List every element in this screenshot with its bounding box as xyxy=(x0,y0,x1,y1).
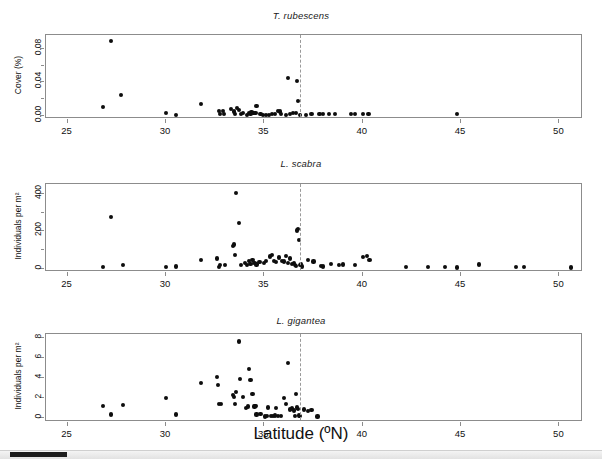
data-point xyxy=(232,242,236,246)
data-point xyxy=(234,191,238,195)
data-point xyxy=(274,260,278,264)
data-point xyxy=(109,215,113,219)
data-point xyxy=(426,265,430,269)
x-axis-tick xyxy=(263,272,264,276)
data-point xyxy=(119,93,123,97)
data-point xyxy=(286,76,290,80)
x-axis-tick xyxy=(362,119,363,123)
data-point xyxy=(164,111,168,115)
x-axis-tick xyxy=(460,272,461,276)
data-point xyxy=(101,105,105,109)
data-point xyxy=(309,408,313,412)
data-point xyxy=(311,259,315,263)
x-axis-tick-label: 25 xyxy=(52,278,82,289)
data-point xyxy=(315,414,319,418)
data-point xyxy=(270,253,274,257)
y-axis-tick xyxy=(41,212,44,213)
data-point xyxy=(232,395,236,399)
x-axis-tick-label: 35 xyxy=(248,125,278,136)
data-point xyxy=(233,253,237,257)
data-point xyxy=(237,339,241,343)
data-point xyxy=(247,367,251,371)
x-axis-tick-label: 50 xyxy=(543,278,573,289)
scrollbar-thumb[interactable] xyxy=(10,452,67,457)
x-axis-tick-label: 25 xyxy=(52,125,82,136)
y-axis-tick xyxy=(41,98,44,99)
data-point xyxy=(109,39,113,43)
data-point xyxy=(279,414,283,418)
data-point xyxy=(455,112,459,116)
y-axis-tick-label: 0.08 xyxy=(33,32,43,62)
y-axis-tick-label: 200 xyxy=(33,214,43,244)
data-point xyxy=(514,265,518,269)
data-point xyxy=(477,262,481,266)
x-axis-tick-label: 45 xyxy=(445,125,475,136)
y-axis-title: Individuals per m² xyxy=(13,317,23,435)
y-axis-tick-label: 400 xyxy=(33,177,43,207)
data-point xyxy=(222,112,226,116)
data-point xyxy=(246,404,250,408)
x-axis-tick xyxy=(362,272,363,276)
data-point xyxy=(199,258,203,262)
data-point xyxy=(219,402,223,406)
data-point xyxy=(288,256,292,260)
data-point xyxy=(282,396,286,400)
y-axis-tick xyxy=(41,65,44,66)
data-point xyxy=(365,254,369,258)
data-point xyxy=(304,113,308,117)
data-point xyxy=(257,260,261,264)
panel-title-3: L. gigantea xyxy=(0,315,602,326)
x-axis-tick-label: 45 xyxy=(445,278,475,289)
data-point xyxy=(522,265,526,269)
x-axis-title: Latitude (ºN) xyxy=(0,424,602,444)
data-point xyxy=(295,79,299,83)
panel-title-1: T. rubescens xyxy=(0,10,602,21)
data-point xyxy=(199,102,203,106)
data-point xyxy=(274,406,278,410)
data-point xyxy=(321,112,325,116)
data-point xyxy=(569,265,573,269)
x-axis-tick xyxy=(263,119,264,123)
data-point xyxy=(215,256,219,260)
x-axis-tick xyxy=(558,119,559,123)
data-point xyxy=(258,412,262,416)
data-point xyxy=(101,265,105,269)
data-point xyxy=(329,262,333,266)
figure-container: T. rubescens 2530354045500.000.040.08Cov… xyxy=(0,0,602,448)
data-point xyxy=(174,264,178,268)
panel-title-2: L. scabra xyxy=(0,158,602,169)
data-point xyxy=(233,402,237,406)
plot-area-2 xyxy=(45,183,582,271)
plot-area-1 xyxy=(45,34,582,118)
data-point xyxy=(279,112,283,116)
plot-area-3 xyxy=(45,333,582,421)
data-point xyxy=(174,412,178,416)
x-axis-tick xyxy=(67,119,68,123)
data-point xyxy=(321,264,325,268)
data-point xyxy=(234,390,238,394)
panel-l-scabra: L. scabra 2530354045500200400Individuals… xyxy=(0,150,602,310)
data-point xyxy=(238,377,242,381)
horizontal-scrollbar[interactable] xyxy=(0,450,602,459)
y-axis-tick xyxy=(41,249,44,250)
data-point xyxy=(361,112,365,116)
y-axis-tick-label: 0.00 xyxy=(33,99,43,129)
data-point xyxy=(101,404,105,408)
x-axis-tick xyxy=(558,272,559,276)
data-point xyxy=(237,221,241,225)
data-point xyxy=(164,396,168,400)
panel-t-rubescens: T. rubescens 2530354045500.000.040.08Cov… xyxy=(0,0,602,150)
data-point xyxy=(341,262,345,266)
data-point xyxy=(443,265,447,269)
threshold-dashed-line xyxy=(300,35,301,117)
y-axis-title: Individuals per m² xyxy=(13,167,23,285)
data-point xyxy=(266,405,270,409)
data-point xyxy=(264,259,268,263)
x-axis-tick-label: 30 xyxy=(150,125,180,136)
data-point xyxy=(109,412,113,416)
data-point xyxy=(353,112,357,116)
data-point xyxy=(121,263,125,267)
data-point xyxy=(216,383,220,387)
threshold-dashed-line xyxy=(300,334,301,420)
data-point xyxy=(250,392,254,396)
